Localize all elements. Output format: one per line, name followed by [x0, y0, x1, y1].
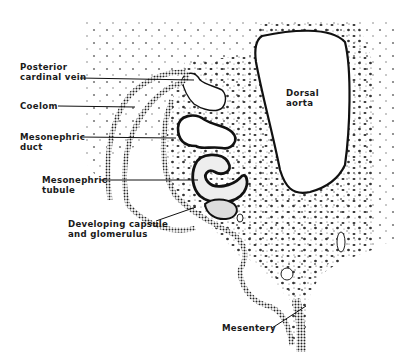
label-mesentery: Mesentery [222, 323, 276, 333]
label-mesonephric-duct: Mesonephric duct [20, 132, 85, 152]
label-posterior-cardinal-vein: Posterior cardinal vein [20, 62, 86, 82]
vessel [281, 268, 293, 280]
vessel [337, 232, 345, 252]
histology-diagram: Posterior cardinal vein Coelom Mesonephr… [0, 0, 413, 362]
label-developing-capsule-glomerulus: Developing capsule and glomerulus [68, 219, 168, 239]
label-mesonephric-tubule: Mesonephric tubule [42, 175, 107, 195]
vessel [237, 214, 243, 222]
label-coelom: Coelom [20, 101, 58, 111]
label-dorsal-aorta: Dorsal aorta [286, 88, 319, 108]
